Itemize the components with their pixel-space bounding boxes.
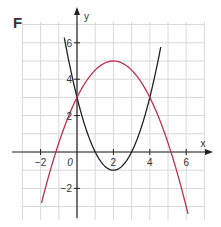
y-tick-label: −2 bbox=[61, 183, 73, 194]
black-parabola bbox=[64, 38, 160, 171]
y-axis-label: y bbox=[84, 11, 89, 22]
function-graph: −2246−22460xy bbox=[0, 0, 221, 227]
x-axis-arrow-icon bbox=[205, 149, 213, 155]
grid bbox=[22, 22, 204, 220]
x-tick-label: 4 bbox=[147, 157, 153, 168]
y-tick-label: 4 bbox=[66, 74, 72, 85]
x-axis-label: x bbox=[201, 138, 206, 149]
origin-label: 0 bbox=[67, 157, 73, 168]
x-tick-label: −2 bbox=[35, 157, 47, 168]
y-tick-label: 6 bbox=[66, 38, 72, 49]
y-tick-label: 2 bbox=[66, 111, 72, 122]
y-axis-arrow-icon bbox=[74, 7, 80, 15]
x-tick-label: 2 bbox=[111, 157, 117, 168]
x-tick-label: 6 bbox=[183, 157, 189, 168]
axes bbox=[12, 7, 213, 218]
